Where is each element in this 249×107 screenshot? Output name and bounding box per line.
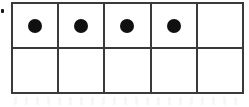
- ten-frame-grid: [11, 2, 244, 94]
- counter-dot-4: [167, 19, 181, 33]
- scan-noise-band: [14, 97, 242, 105]
- frame-cell-10[interactable]: [198, 49, 244, 94]
- frame-cell-2[interactable]: [59, 4, 105, 49]
- stray-ink-speck: [1, 9, 4, 13]
- frame-cell-1[interactable]: [13, 4, 59, 49]
- frame-cell-6[interactable]: [13, 49, 59, 94]
- frame-cell-4[interactable]: [152, 4, 198, 49]
- frame-cell-9[interactable]: [152, 49, 198, 94]
- counter-dot-2: [74, 19, 88, 33]
- figure-canvas: [0, 0, 249, 107]
- frame-cell-7[interactable]: [59, 49, 105, 94]
- frame-cell-3[interactable]: [105, 4, 151, 49]
- counter-dot-3: [120, 19, 134, 33]
- counter-dot-1: [28, 19, 42, 33]
- frame-cell-8[interactable]: [105, 49, 151, 94]
- frame-cell-5[interactable]: [198, 4, 244, 49]
